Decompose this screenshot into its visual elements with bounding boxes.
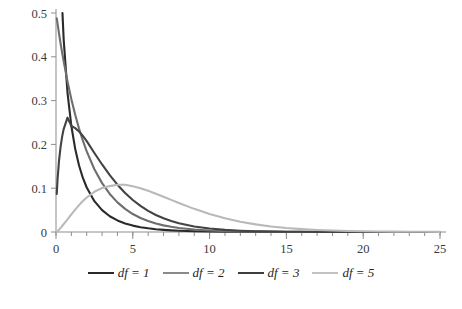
x-tick-label: 20 (357, 242, 370, 256)
legend-entry[interactable]: df = 2 (163, 265, 225, 281)
x-tick-label: 15 (280, 242, 293, 256)
legend-line-swatch (163, 272, 189, 274)
x-tick-label: 10 (203, 242, 216, 256)
legend-entry[interactable]: df = 5 (312, 265, 374, 281)
legend-entry[interactable]: df = 3 (238, 265, 300, 281)
legend-entry[interactable]: df = 1 (88, 265, 150, 281)
density-curve (57, 185, 440, 232)
legend-label: df = 3 (268, 265, 300, 281)
legend-line-swatch (238, 272, 264, 274)
x-axis-group: 0510152025 (53, 232, 446, 256)
legend-label: df = 2 (193, 265, 225, 281)
legend-label: df = 5 (342, 265, 374, 281)
chi-square-density-figure: 00.10.20.30.40.5 0510152025 df = 1df = 2… (0, 0, 462, 309)
y-tick-label: 0.4 (31, 50, 47, 64)
x-tick-label: 5 (130, 242, 136, 256)
y-tick-label: 0.5 (31, 7, 47, 21)
density-curve (62, 13, 440, 232)
y-tick-label: 0.3 (31, 94, 47, 108)
legend-line-swatch (88, 272, 114, 274)
x-tick-label: 25 (434, 242, 447, 256)
y-axis-ticks (51, 13, 56, 232)
legend-line-swatch (312, 272, 338, 274)
chart-svg: 00.10.20.30.40.5 0510152025 (0, 0, 462, 258)
y-tick-label: 0.2 (31, 138, 47, 152)
density-curves (57, 13, 440, 232)
legend-label: df = 1 (118, 265, 150, 281)
chart-plot-area: 00.10.20.30.40.5 0510152025 (0, 0, 462, 258)
y-tick-label: 0.1 (31, 182, 47, 196)
y-axis-tick-labels: 00.10.20.30.40.5 (31, 7, 47, 240)
density-curve (57, 118, 440, 232)
y-tick-label: 0 (41, 226, 47, 240)
x-axis-tick-labels: 0510152025 (53, 242, 446, 256)
chart-legend: df = 1df = 2df = 3df = 5 (0, 262, 462, 284)
y-axis-group: 00.10.20.30.40.5 (31, 7, 56, 240)
x-tick-label: 0 (53, 242, 59, 256)
density-curve (57, 18, 440, 232)
